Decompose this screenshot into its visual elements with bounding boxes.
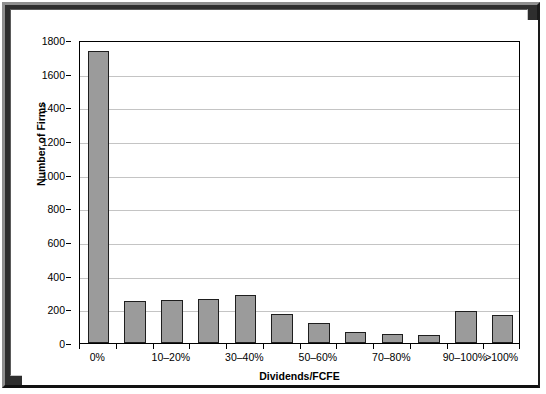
- bar: [382, 334, 403, 343]
- y-tick-mark: [66, 176, 71, 177]
- y-tick-label: 200: [47, 304, 65, 316]
- bar: [271, 314, 292, 343]
- y-tick-label: 400: [47, 271, 65, 283]
- bar: [88, 51, 109, 343]
- chart-canvas: Number of Firms 020040060080010001200140…: [22, 20, 538, 385]
- chart-screenshot: Number of Firms 020040060080010001200140…: [0, 0, 546, 394]
- plot-area: [79, 41, 520, 344]
- x-tick-mark: [300, 344, 301, 349]
- x-tick-mark: [483, 344, 484, 349]
- y-tick-label: 1800: [42, 35, 65, 47]
- x-tick-label: 0%: [90, 351, 105, 363]
- x-tick-mark: [410, 344, 411, 349]
- y-axis-labels: 020040060080010001200140016001800: [22, 20, 79, 344]
- bar: [418, 335, 439, 343]
- y-tick-mark: [66, 41, 71, 42]
- y-tick-mark: [66, 310, 71, 311]
- y-tick-mark: [66, 75, 71, 76]
- bar: [124, 301, 145, 343]
- y-tick-mark: [66, 108, 71, 109]
- x-tick-mark: [153, 344, 154, 349]
- x-tick-label: 10–20%: [152, 351, 191, 363]
- picture-frame-inner: Number of Firms 020040060080010001200140…: [10, 9, 528, 376]
- x-tick-mark: [373, 344, 374, 349]
- x-axis-title: Dividends/FCFE: [79, 370, 520, 382]
- bar: [161, 300, 182, 343]
- y-tick-mark: [66, 277, 71, 278]
- x-tick-mark: [519, 344, 520, 349]
- y-tick-mark: [66, 243, 71, 244]
- x-tick-mark: [226, 344, 227, 349]
- x-tick-label: 70–80%: [372, 351, 411, 363]
- bar: [455, 311, 476, 343]
- y-tick-label: 800: [47, 203, 65, 215]
- x-tick-label: 30–40%: [225, 351, 264, 363]
- bar: [345, 332, 366, 343]
- y-tick-mark: [66, 209, 71, 210]
- bar: [235, 295, 256, 343]
- x-tick-mark: [447, 344, 448, 349]
- x-tick-mark: [263, 344, 264, 349]
- x-tick-mark: [79, 344, 80, 349]
- y-tick-label: 600: [47, 237, 65, 249]
- x-axis-ticks: [79, 344, 520, 350]
- y-tick-label: 1400: [42, 102, 65, 114]
- x-tick-mark: [116, 344, 117, 349]
- bar: [198, 299, 219, 343]
- y-tick-mark: [66, 344, 71, 345]
- x-tick-label: 90–100%: [443, 351, 487, 363]
- x-tick-mark: [189, 344, 190, 349]
- x-tick-label: >100%: [485, 351, 518, 363]
- y-tick-label: 1600: [42, 69, 65, 81]
- x-tick-mark: [336, 344, 337, 349]
- y-tick-label: 0: [59, 338, 65, 350]
- bars-layer: [80, 42, 519, 343]
- x-tick-label: 50–60%: [299, 351, 338, 363]
- y-tick-mark: [66, 142, 71, 143]
- y-tick-label: 1200: [42, 136, 65, 148]
- bar: [308, 323, 329, 343]
- bar: [492, 315, 513, 343]
- y-tick-label: 1000: [42, 170, 65, 182]
